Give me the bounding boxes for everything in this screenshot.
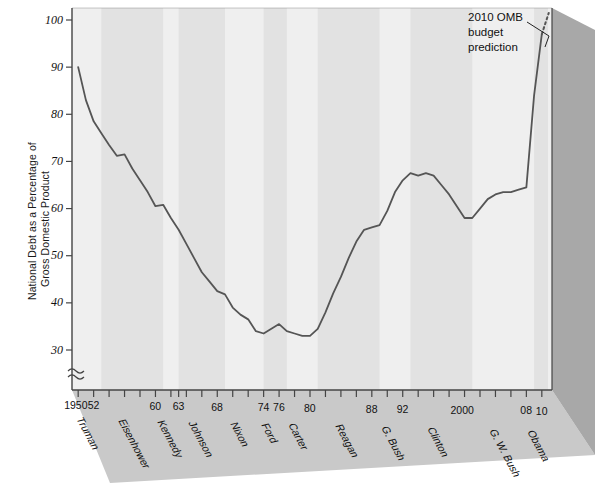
- x-tick-label: 10: [536, 405, 548, 417]
- x-tick-label: 60: [149, 400, 161, 412]
- x-tick-label: 63: [173, 400, 185, 412]
- x-tick-label: 08: [520, 404, 532, 416]
- y-axis-label-line1: National Debt as a Percentage of: [26, 142, 38, 300]
- y-tick-label: 70: [51, 154, 63, 168]
- x-tick-label: 76: [273, 401, 285, 413]
- president-term-band: [318, 8, 380, 390]
- chart-side-panel-3d: [552, 8, 595, 455]
- president-term-band: [534, 8, 548, 390]
- x-tick-label: 1950: [64, 399, 87, 411]
- y-tick-label: 90: [51, 60, 63, 74]
- annotation-line-1: 2010 OMB: [468, 10, 523, 25]
- x-tick-label: 74: [258, 401, 270, 413]
- chart-canvas: 30405060708090100: [0, 0, 603, 497]
- president-term-band: [264, 8, 287, 390]
- chart-figure: 30405060708090100 National Debt as a Per…: [0, 0, 603, 497]
- annotation-line-3: prediction: [468, 40, 523, 55]
- x-tick-label: 88: [366, 403, 378, 415]
- y-axis-label-line2: Gross Domestic Product: [39, 171, 51, 287]
- x-tick-label: 2000: [451, 404, 474, 416]
- x-tick-label: 92: [397, 403, 409, 415]
- omb-prediction-annotation: 2010 OMB budget prediction: [468, 10, 523, 55]
- y-tick-label: 50: [51, 248, 63, 262]
- x-tick-label: 68: [211, 401, 223, 413]
- president-term-band: [410, 8, 472, 390]
- y-tick-label: 30: [50, 343, 63, 357]
- president-term-band: [179, 8, 225, 390]
- y-tick-label: 60: [51, 201, 63, 215]
- y-tick-label: 40: [51, 295, 63, 309]
- y-tick-label: 100: [45, 13, 63, 27]
- x-tick-label: 80: [304, 402, 316, 414]
- president-term-band: [101, 8, 163, 390]
- y-tick-label: 80: [51, 107, 63, 121]
- annotation-line-2: budget: [468, 25, 523, 40]
- x-tick-label: 52: [88, 399, 100, 411]
